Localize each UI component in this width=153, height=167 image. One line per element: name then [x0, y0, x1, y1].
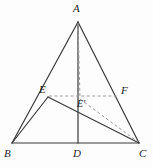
geometry-canvas: [0, 0, 153, 167]
vertex-label-E-prime: E': [77, 99, 85, 109]
geometry-figure: A B C D E F E': [0, 0, 153, 167]
solid-edges: [12, 22, 139, 143]
segment-EpC-dashed: [80, 99, 138, 142]
segment-AC: [78, 22, 139, 143]
segment-EC: [48, 97, 139, 143]
vertex-label-C: C: [139, 148, 146, 159]
segment-BE: [12, 97, 48, 143]
dashed-edges: [49, 23, 138, 142]
vertex-label-E: E: [39, 84, 46, 95]
vertex-label-B: B: [4, 148, 11, 159]
vertex-label-A: A: [73, 3, 80, 14]
vertex-label-D: D: [73, 148, 81, 159]
vertex-label-F: F: [121, 85, 128, 96]
